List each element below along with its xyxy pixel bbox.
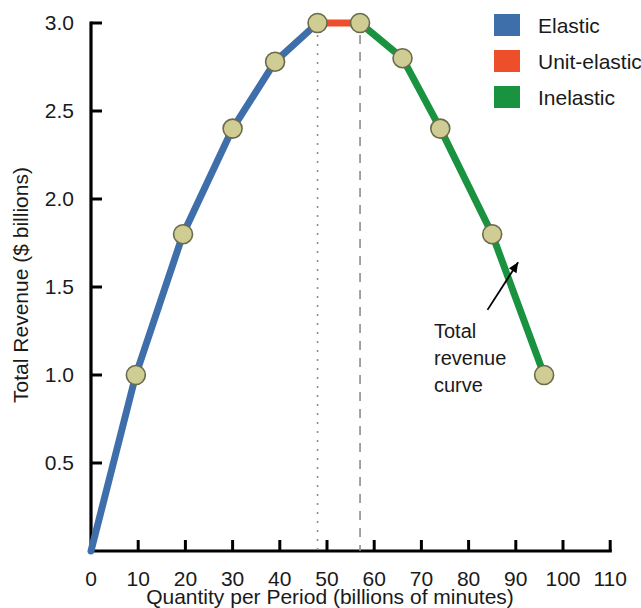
- y-tick-label: 0.5: [45, 451, 74, 474]
- data-point-markers: [126, 14, 553, 385]
- data-point-marker: [266, 52, 285, 71]
- x-tick-label: 0: [85, 567, 97, 590]
- chart-annotations: Totalrevenuecurve: [434, 262, 518, 396]
- data-point-marker: [174, 225, 193, 244]
- data-point-marker: [223, 119, 242, 138]
- guide-lines: [318, 35, 360, 551]
- y-tick-label: 2.0: [45, 187, 74, 210]
- legend-label-inelastic: Inelastic: [538, 86, 615, 109]
- y-tick-label: 2.5: [45, 99, 74, 122]
- data-point-marker: [431, 119, 450, 138]
- y-tick-label: 1.0: [45, 363, 74, 386]
- annotation-text-line: revenue: [434, 347, 506, 369]
- y-tick-label: 3.0: [45, 11, 74, 34]
- curve-segment-elastic: [91, 23, 318, 551]
- data-point-marker: [483, 225, 502, 244]
- annotation-text-line: curve: [434, 374, 483, 396]
- x-axis-tick-group: [138, 540, 610, 551]
- y-tick-label: 1.5: [45, 275, 74, 298]
- y-axis-tick-labels: 0.51.01.52.02.53.0: [45, 11, 74, 474]
- y-axis-title: Total Revenue ($ billions): [9, 167, 32, 403]
- chart-svg: 0.51.01.52.02.53.0 010203040506070809010…: [0, 0, 641, 608]
- annotation-text-line: Total: [434, 320, 476, 342]
- legend-swatch-elastic: [494, 14, 520, 36]
- data-point-marker: [351, 14, 370, 33]
- x-tick-label: 100: [545, 567, 580, 590]
- x-tick-label: 110: [593, 567, 626, 590]
- legend-swatch-inelastic: [494, 86, 520, 108]
- legend-label-unit-elastic: Unit-elastic: [538, 50, 641, 73]
- data-point-marker: [126, 366, 145, 385]
- annotation-arrow-head: [509, 262, 518, 273]
- chart-legend: ElasticUnit-elasticInelastic: [494, 14, 641, 109]
- data-point-marker: [393, 49, 412, 68]
- legend-label-elastic: Elastic: [538, 14, 600, 37]
- data-point-marker: [308, 14, 327, 33]
- x-axis-title: Quantity per Period (billions of minutes…: [146, 585, 514, 608]
- y-axis-tick-group: [91, 23, 102, 463]
- total-revenue-chart: 0.51.01.52.02.53.0 010203040506070809010…: [0, 0, 641, 608]
- data-point-marker: [535, 366, 554, 385]
- legend-swatch-unit-elastic: [494, 50, 520, 72]
